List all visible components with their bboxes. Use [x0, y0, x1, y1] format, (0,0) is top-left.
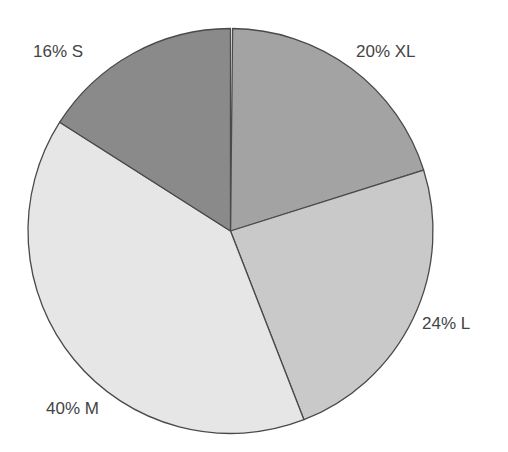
slice-label-s: 16% S — [33, 43, 83, 60]
slice-label-l: 24% L — [422, 315, 470, 332]
slice-label-m: 40% M — [46, 400, 99, 417]
pie-slices — [28, 29, 433, 434]
pie-chart — [0, 0, 508, 452]
slice-label-xl: 20% XL — [356, 43, 416, 60]
